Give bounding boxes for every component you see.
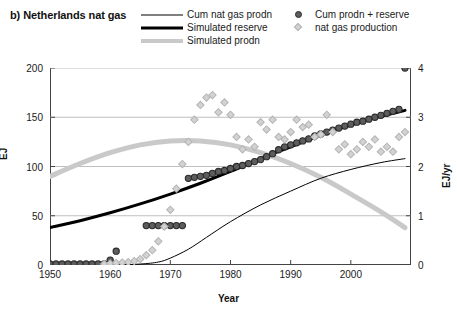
x-tick-label: 1990: [268, 269, 314, 280]
thick-line-icon: [141, 23, 183, 33]
legend-label: Simulated prodn: [187, 35, 260, 46]
data-point-circle: [245, 160, 251, 166]
data-point-circle: [378, 112, 384, 118]
data-point-diamond: [347, 151, 354, 158]
series-line: [50, 159, 405, 265]
data-point-circle: [155, 223, 161, 229]
data-point-diamond: [233, 133, 240, 140]
data-point-circle: [276, 147, 282, 153]
data-point-circle: [215, 168, 221, 174]
data-point-circle: [336, 125, 342, 131]
gray-diamond-icon: [288, 22, 310, 33]
data-point-circle: [390, 108, 396, 114]
data-point-diamond: [389, 148, 396, 155]
data-point-circle: [270, 151, 276, 157]
data-point-circle: [221, 167, 227, 173]
data-point-circle: [53, 261, 59, 265]
data-point-diamond: [377, 148, 384, 155]
data-point-circle: [65, 261, 71, 265]
data-point-diamond: [359, 138, 366, 145]
data-point-diamond: [197, 101, 204, 108]
data-point-diamond: [221, 99, 228, 106]
y2-tick-label: 4: [418, 63, 448, 74]
data-point-circle: [366, 116, 372, 122]
y2-tick-label: 1: [418, 210, 448, 221]
data-point-circle: [89, 261, 95, 265]
data-point-circle: [149, 223, 155, 229]
data-point-circle: [251, 158, 257, 164]
data-point-circle: [143, 223, 149, 229]
data-point-circle: [294, 140, 300, 146]
data-point-circle: [185, 175, 191, 181]
data-point-circle: [113, 248, 119, 254]
data-point-circle: [264, 154, 270, 160]
x-tick-label: 1970: [147, 269, 193, 280]
data-point-circle: [167, 223, 173, 229]
legend-lines: Cum nat gas prodn Simulated reserve Simu…: [141, 8, 272, 47]
legend-label: Cum prodn + reserve: [315, 9, 409, 20]
chart-title: b) Netherlands nat gas: [10, 9, 126, 21]
data-point-circle: [209, 170, 215, 176]
data-point-diamond: [167, 206, 174, 213]
data-point-circle: [372, 114, 378, 120]
legend-item-nat-gas-production: nat gas production: [288, 21, 409, 34]
legend-label: Simulated reserve: [187, 22, 268, 33]
data-point-diamond: [395, 133, 402, 140]
data-point-circle: [191, 174, 197, 180]
legend-item-simulated-prodn: Simulated prodn: [141, 34, 272, 47]
y-tick-label: 100: [3, 161, 43, 172]
data-point-circle: [396, 106, 402, 112]
chart-figure: b) Netherlands nat gas Cum nat gas prodn…: [0, 0, 457, 318]
y-tick-label: 150: [3, 112, 43, 123]
data-point-circle: [300, 138, 306, 144]
data-point-diamond: [155, 238, 162, 245]
data-point-diamond: [371, 136, 378, 143]
x-tick-label: 2000: [328, 269, 374, 280]
data-point-diamond: [341, 141, 348, 148]
filled-circle-icon: [288, 9, 310, 20]
plot-area: [50, 68, 411, 265]
legend-label: Cum nat gas prodn: [187, 9, 272, 20]
legend-item-simulated-reserve: Simulated reserve: [141, 21, 272, 34]
y2-tick-label: 0: [418, 260, 448, 271]
x-axis-label: Year: [0, 293, 457, 304]
x-tick-label: 1960: [87, 269, 133, 280]
data-point-circle: [227, 165, 233, 171]
data-point-circle: [173, 223, 179, 229]
chart-canvas: [50, 68, 411, 265]
data-point-circle: [59, 261, 65, 265]
legend-item-cum-nat-gas-prodn: Cum nat gas prodn: [141, 8, 272, 21]
data-point-circle: [239, 162, 245, 168]
legend-label: nat gas production: [315, 22, 397, 33]
thin-line-icon: [141, 10, 183, 20]
data-point-circle: [197, 173, 203, 179]
y-tick-label: 200: [3, 63, 43, 74]
data-point-diamond: [401, 128, 408, 135]
x-tick-label: 1950: [27, 269, 73, 280]
legend-item-cum-prodn-reserve: Cum prodn + reserve: [288, 8, 409, 21]
data-point-circle: [354, 119, 360, 125]
data-point-diamond: [149, 247, 156, 254]
y-axis-label: EJ: [0, 148, 9, 160]
data-point-diamond: [287, 128, 294, 135]
data-point-diamond: [215, 109, 222, 116]
y-tick-label: 50: [3, 210, 43, 221]
data-point-circle: [360, 118, 366, 124]
data-point-diamond: [335, 146, 342, 153]
y2-tick-label: 3: [418, 112, 448, 123]
data-point-diamond: [365, 143, 372, 150]
data-point-circle: [203, 172, 209, 178]
data-point-circle: [288, 142, 294, 148]
data-point-circle: [348, 121, 354, 127]
x-tick-label: 1980: [208, 269, 254, 280]
data-point-circle: [77, 261, 83, 265]
data-point-circle: [342, 123, 348, 129]
data-point-diamond: [245, 136, 252, 143]
data-point-circle: [179, 223, 185, 229]
data-point-diamond: [257, 118, 264, 125]
data-point-circle: [384, 110, 390, 116]
data-point-diamond: [383, 143, 390, 150]
data-point-circle: [402, 68, 408, 71]
legend-markers: Cum prodn + reserve nat gas production: [288, 8, 409, 34]
data-point-diamond: [353, 146, 360, 153]
